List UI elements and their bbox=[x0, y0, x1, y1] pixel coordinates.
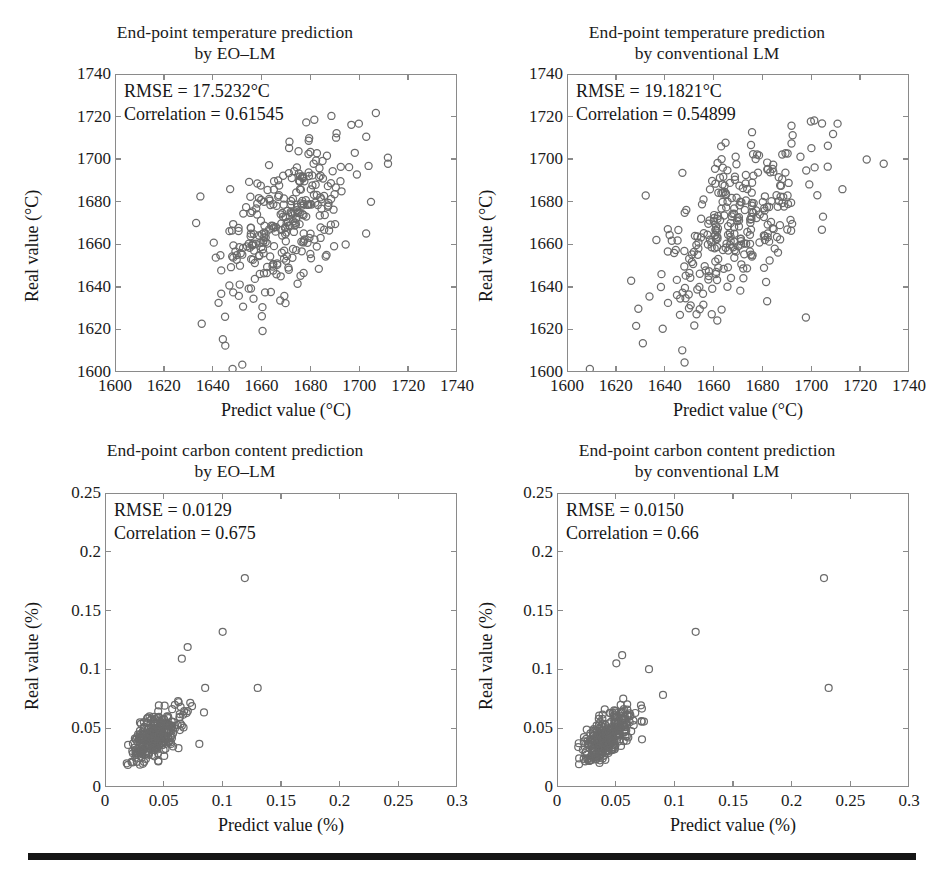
panel-title-top-right: End-point temperature prediction by conv… bbox=[472, 22, 942, 65]
plot-area-bottom-right: RMSE = 0.0150 Correlation = 0.66 bbox=[557, 493, 909, 787]
xtick-label: 0.2 bbox=[329, 791, 350, 811]
scatter-points-top-right bbox=[568, 75, 908, 371]
ytick-mark bbox=[567, 286, 573, 287]
xtick-mark bbox=[791, 781, 792, 787]
bottom-horizontal-rule bbox=[28, 853, 916, 860]
plot-area-bottom-left: RMSE = 0.0129 Correlation = 0.675 bbox=[105, 493, 457, 787]
plot-area-top-left: RMSE = 17.5232°C Correlation = 0.61545 bbox=[115, 74, 457, 372]
xtick-label: 0.05 bbox=[149, 791, 179, 811]
ytick-label: 0 bbox=[491, 777, 553, 797]
ytick-label: 1640 bbox=[501, 277, 563, 297]
xtick-mark bbox=[615, 74, 616, 80]
ytick-mark bbox=[557, 551, 563, 552]
ytick-label: 1700 bbox=[501, 149, 563, 169]
ytick-mark bbox=[903, 669, 909, 670]
panel-title-bottom-right: End-point carbon content prediction by c… bbox=[472, 440, 942, 483]
xtick-mark bbox=[407, 366, 408, 372]
ytick-label: 0.15 bbox=[491, 601, 553, 621]
ytick-label: 0.2 bbox=[491, 542, 553, 562]
ytick-mark bbox=[115, 244, 121, 245]
xtick-label: 1720 bbox=[843, 376, 877, 396]
panel-title-line2: by EO–LM bbox=[0, 43, 470, 64]
panel-bottom-right: End-point carbon content prediction by c… bbox=[472, 440, 942, 840]
xtick-mark bbox=[222, 781, 223, 787]
panel-top-right: End-point temperature prediction by conv… bbox=[472, 22, 942, 432]
scatter-points-bottom-left bbox=[106, 494, 456, 786]
ytick-mark bbox=[115, 329, 121, 330]
xtick-mark bbox=[762, 366, 763, 372]
ytick-label: 1680 bbox=[501, 192, 563, 212]
ytick-mark bbox=[115, 158, 121, 159]
xtick-label: 1620 bbox=[599, 376, 633, 396]
panel-title-line1: End-point temperature prediction bbox=[117, 22, 353, 42]
xtick-mark bbox=[359, 366, 360, 372]
ytick-mark bbox=[903, 158, 909, 159]
xtick-label: 1660 bbox=[245, 376, 279, 396]
xtick-label: 0.2 bbox=[781, 791, 802, 811]
ytick-mark bbox=[451, 610, 457, 611]
xtick-mark bbox=[163, 74, 164, 80]
ytick-mark bbox=[451, 201, 457, 202]
xtick-mark bbox=[713, 74, 714, 80]
xtick-mark bbox=[664, 366, 665, 372]
ytick-mark bbox=[567, 116, 573, 117]
yaxis-label-bottom-left: Real value (%) bbox=[22, 602, 43, 710]
ytick-mark bbox=[903, 286, 909, 287]
ytick-label: 1680 bbox=[49, 192, 111, 212]
xtick-mark bbox=[212, 366, 213, 372]
xtick-label: 0 bbox=[553, 791, 562, 811]
xtick-label: 0.3 bbox=[898, 791, 919, 811]
xtick-mark bbox=[163, 366, 164, 372]
ytick-mark bbox=[105, 728, 111, 729]
ytick-mark bbox=[567, 201, 573, 202]
xtick-label: 1640 bbox=[648, 376, 682, 396]
panel-title-line1: End-point carbon content prediction bbox=[579, 440, 836, 460]
xaxis-label-bottom-right: Predict value (%) bbox=[557, 815, 909, 836]
xtick-mark bbox=[359, 74, 360, 80]
xtick-label: 1740 bbox=[892, 376, 926, 396]
xtick-mark bbox=[398, 781, 399, 787]
xtick-mark bbox=[261, 366, 262, 372]
ytick-label: 1620 bbox=[501, 319, 563, 339]
xtick-mark bbox=[212, 74, 213, 80]
ytick-label: 0.1 bbox=[39, 659, 101, 679]
ytick-label: 1720 bbox=[501, 107, 563, 127]
ytick-mark bbox=[451, 728, 457, 729]
panel-title-top-left: End-point temperature prediction by EO–L… bbox=[0, 22, 470, 65]
ytick-mark bbox=[105, 669, 111, 670]
xtick-label: 1620 bbox=[147, 376, 181, 396]
yaxis-label-top-left: Real value (°C) bbox=[22, 190, 43, 302]
ytick-mark bbox=[451, 244, 457, 245]
xtick-label: 0 bbox=[101, 791, 110, 811]
ytick-label: 0.15 bbox=[39, 601, 101, 621]
xtick-mark bbox=[791, 493, 792, 499]
xtick-mark bbox=[859, 74, 860, 80]
xtick-label: 0.15 bbox=[266, 791, 296, 811]
xtick-label: 0.05 bbox=[601, 791, 631, 811]
xtick-label: 1600 bbox=[550, 376, 584, 396]
xtick-label: 0.25 bbox=[835, 791, 865, 811]
xtick-mark bbox=[280, 781, 281, 787]
ytick-label: 0.05 bbox=[39, 718, 101, 738]
ytick-label: 0.25 bbox=[491, 483, 553, 503]
xtick-mark bbox=[664, 74, 665, 80]
xtick-mark bbox=[674, 781, 675, 787]
panel-title-line2: by EO–LM bbox=[0, 461, 470, 482]
xaxis-label-top-right: Predict value (°C) bbox=[567, 400, 909, 421]
xtick-mark bbox=[280, 493, 281, 499]
xaxis-label-bottom-left: Predict value (%) bbox=[105, 815, 457, 836]
ytick-mark bbox=[567, 158, 573, 159]
panel-title-line2: by conventional LM bbox=[472, 43, 942, 64]
ytick-mark bbox=[903, 244, 909, 245]
ytick-mark bbox=[903, 201, 909, 202]
xtick-label: 1720 bbox=[391, 376, 425, 396]
xtick-mark bbox=[310, 74, 311, 80]
xtick-mark bbox=[163, 781, 164, 787]
panel-title-line1: End-point temperature prediction bbox=[589, 22, 825, 42]
ytick-mark bbox=[451, 116, 457, 117]
ytick-label: 1740 bbox=[501, 64, 563, 84]
ytick-label: 1620 bbox=[49, 319, 111, 339]
xtick-label: 1740 bbox=[440, 376, 474, 396]
xtick-label: 1600 bbox=[98, 376, 132, 396]
xtick-mark bbox=[850, 493, 851, 499]
